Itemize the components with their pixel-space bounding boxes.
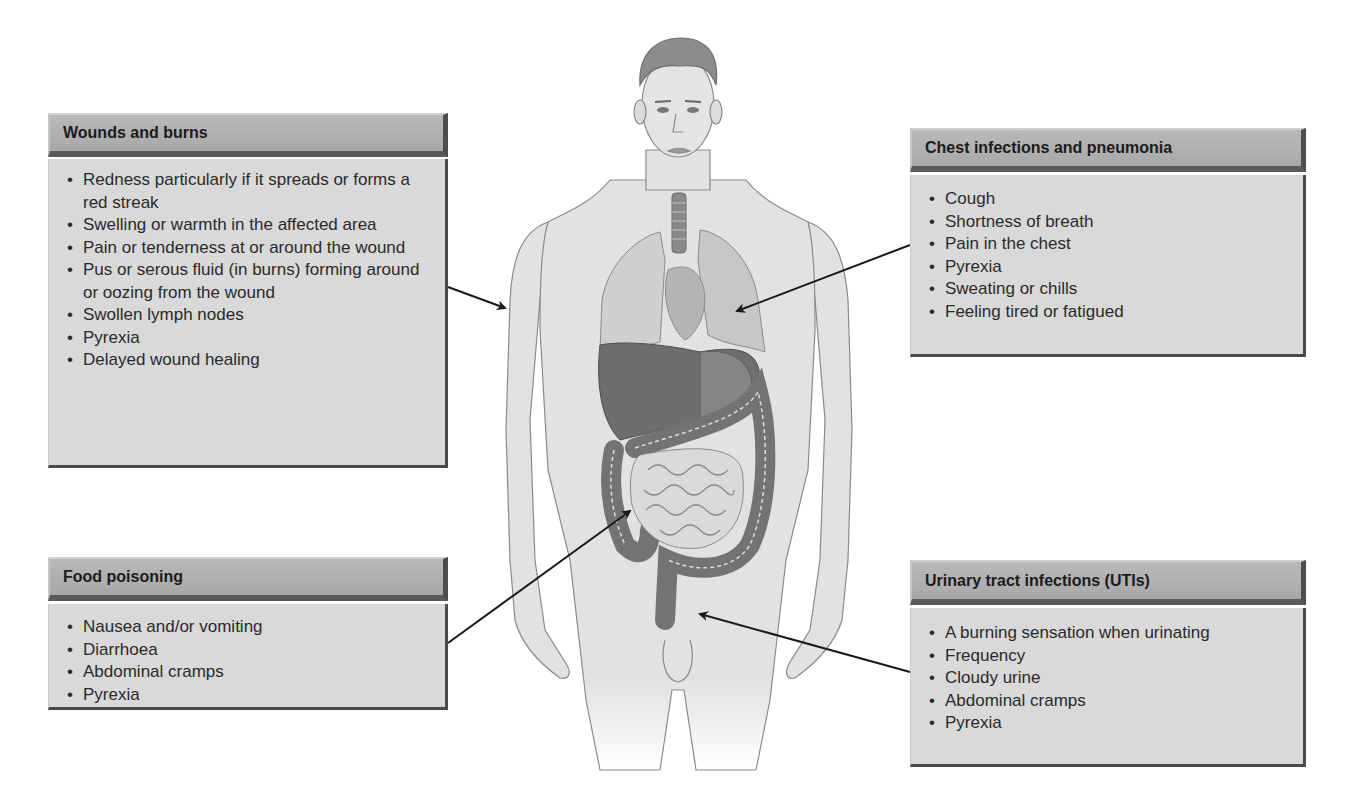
- symptom-list-box: Nausea and/or vomiting Diarrhoea Abdomin…: [48, 604, 448, 710]
- symptom-item: Pyrexia: [67, 327, 433, 350]
- symptom-item: Redness particularly if it spreads or fo…: [67, 169, 433, 214]
- panel-title-text: Wounds and burns: [63, 124, 208, 142]
- symptom-list-box: Cough Shortness of breath Pain in the ch…: [910, 175, 1306, 357]
- symptom-item: Shortness of breath: [929, 211, 1291, 234]
- symptom-list-box: Redness particularly if it spreads or fo…: [48, 159, 448, 468]
- symptom-item: Swollen lymph nodes: [67, 304, 433, 327]
- panel-urinary-tract-infections: Urinary tract infections (UTIs) A burnin…: [910, 560, 1306, 767]
- symptom-item: Feeling tired or fatigued: [929, 301, 1291, 324]
- panel-title-text: Chest infections and pneumonia: [925, 139, 1172, 157]
- panel-title-text: Food poisoning: [63, 568, 183, 586]
- panel-chest-infections: Chest infections and pneumonia Cough Sho…: [910, 128, 1306, 357]
- symptom-list-box: A burning sensation when urinating Frequ…: [910, 608, 1306, 767]
- arrow-wounds: [448, 287, 505, 308]
- symptom-item: Pus or serous fluid (in burns) forming a…: [67, 259, 433, 304]
- symptom-item: Diarrhoea: [67, 639, 433, 662]
- symptom-item: Cough: [929, 188, 1291, 211]
- symptom-item: Pain in the chest: [929, 233, 1291, 256]
- symptom-item: Swelling or warmth in the affected area: [67, 214, 433, 237]
- symptom-item: Pyrexia: [929, 712, 1291, 735]
- panel-title: Chest infections and pneumonia: [910, 128, 1306, 172]
- symptom-item: Cloudy urine: [929, 667, 1291, 690]
- panel-title: Food poisoning: [48, 557, 448, 601]
- panel-food-poisoning: Food poisoning Nausea and/or vomiting Di…: [48, 557, 448, 710]
- symptom-item: Abdominal cramps: [929, 690, 1291, 713]
- symptom-item: Abdominal cramps: [67, 661, 433, 684]
- symptom-item: Pyrexia: [67, 684, 433, 707]
- symptom-item: Pyrexia: [929, 256, 1291, 279]
- panel-wounds-and-burns: Wounds and burns Redness particularly if…: [48, 113, 448, 468]
- symptom-item: Delayed wound healing: [67, 349, 433, 372]
- symptom-list: Nausea and/or vomiting Diarrhoea Abdomin…: [67, 616, 433, 706]
- symptom-item: Frequency: [929, 645, 1291, 668]
- panel-title: Wounds and burns: [48, 113, 448, 157]
- symptom-list: Cough Shortness of breath Pain in the ch…: [929, 188, 1291, 323]
- symptom-item: Sweating or chills: [929, 278, 1291, 301]
- symptom-list: A burning sensation when urinating Frequ…: [929, 622, 1291, 735]
- panel-title: Urinary tract infections (UTIs): [910, 560, 1306, 605]
- panel-title-text: Urinary tract infections (UTIs): [925, 572, 1150, 590]
- symptom-item: Pain or tenderness at or around the woun…: [67, 237, 433, 260]
- symptom-item: A burning sensation when urinating: [929, 622, 1291, 645]
- symptom-list: Redness particularly if it spreads or fo…: [67, 169, 433, 372]
- trachea: [672, 193, 686, 253]
- symptom-item: Nausea and/or vomiting: [67, 616, 433, 639]
